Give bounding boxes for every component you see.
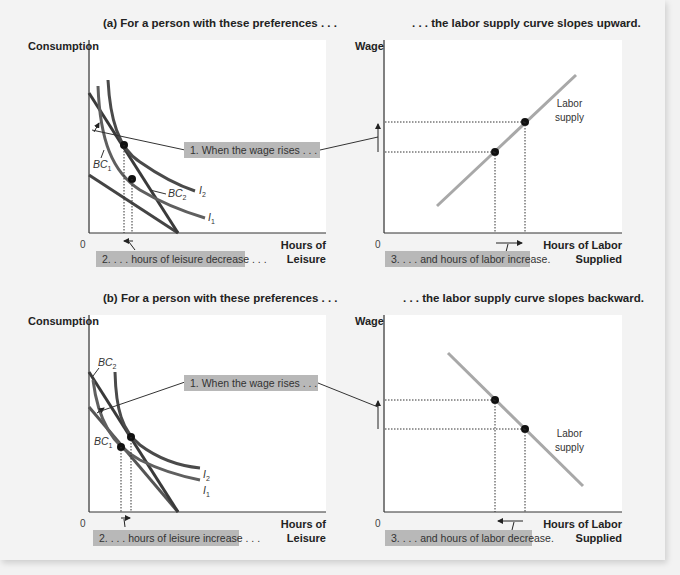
- panel-b-right-chart: [378, 315, 622, 530]
- panel-a-right-chart: [378, 40, 622, 252]
- i2-label-b: I2: [203, 468, 210, 482]
- i1-label-b: I1: [203, 484, 210, 498]
- bc2-label-a: BC2: [168, 187, 187, 201]
- callout-labor-decrease: 3. . . . and hours of labor decrease.: [385, 530, 532, 546]
- callout-leisure-increase: 2. . . . hours of leisure increase . . .: [93, 530, 239, 546]
- panel-b-left-origin: 0: [80, 518, 86, 529]
- textbook-page: (a) For a person with these preferences …: [0, 0, 665, 560]
- callout-leisure-decrease: 2. . . . hours of leisure decrease . . .: [96, 251, 245, 267]
- panel-b-left-x-label: Hours of Leisure: [260, 517, 326, 545]
- panel-b-left-title: (b) For a person with these preferences …: [103, 292, 338, 304]
- panel-a-left-origin: 0: [80, 239, 86, 250]
- bc1-label-a: BC1: [93, 158, 112, 172]
- bc2-label-b: BC2: [98, 356, 117, 370]
- panel-b-left-y-label: Consumption: [28, 314, 99, 328]
- panel-a-right-title: . . . the labor supply curve slopes upwa…: [412, 17, 641, 29]
- connector-a: [320, 137, 378, 150]
- x-label-line1: Hours of: [260, 238, 326, 252]
- x-label-line1: Hours of: [260, 517, 326, 531]
- panel-a-left-title: (a) For a person with these preferences …: [103, 17, 337, 29]
- connector-b: [318, 383, 378, 407]
- i1-label-a: I1: [208, 211, 215, 225]
- callout-labor-increase: 3. . . . and hours of labor increase.: [385, 251, 530, 267]
- panel-b-right-y-label: Wage: [355, 314, 384, 328]
- x-label-line1: Hours of Labor: [530, 517, 622, 531]
- panel-b-right-title: . . . the labor supply curve slopes back…: [403, 292, 644, 304]
- panel-a-right-y-label: Wage: [355, 39, 384, 53]
- x-label-line1: Hours of Labor: [530, 238, 622, 252]
- callout-wage-rises-b: 1. When the wage rises . . .: [184, 375, 318, 391]
- labor-supply-label-b: Labor supply: [555, 427, 584, 455]
- panel-a-left-x-label: Hours of Leisure: [260, 238, 326, 266]
- labor-supply-label-a: Labor supply: [555, 97, 584, 125]
- panel-a-right-origin: 0: [375, 239, 381, 250]
- panel-a-left-y-label: Consumption: [28, 39, 99, 53]
- i2-label-a: I2: [199, 184, 206, 198]
- x-label-line2: Leisure: [260, 531, 326, 545]
- diagram-svg: [0, 0, 680, 575]
- bc1-label-b: BC1: [94, 435, 113, 449]
- x-label-line2: Leisure: [260, 252, 326, 266]
- callout-wage-rises-a: 1. When the wage rises . . .: [184, 142, 320, 158]
- panel-b-right-origin: 0: [375, 518, 381, 529]
